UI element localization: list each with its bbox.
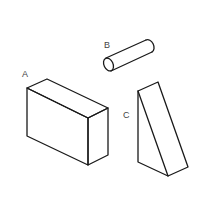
- diagram-figure: A B C: [0, 0, 203, 214]
- cylinder-bottom-edge: [111, 52, 152, 71]
- shape-a-block: [27, 79, 108, 165]
- block-side-face: [88, 108, 108, 165]
- cylinder-top-edge: [106, 40, 146, 58]
- block-front-face: [27, 88, 88, 165]
- shapes-canvas: [0, 0, 203, 214]
- label-b: B: [104, 41, 110, 50]
- shape-c-wedge: [138, 82, 188, 176]
- block-top-face: [27, 79, 108, 118]
- wedge-slope-face: [138, 82, 188, 176]
- label-c: C: [123, 111, 130, 120]
- cylinder-back-end: [146, 40, 154, 52]
- label-a: A: [22, 70, 28, 79]
